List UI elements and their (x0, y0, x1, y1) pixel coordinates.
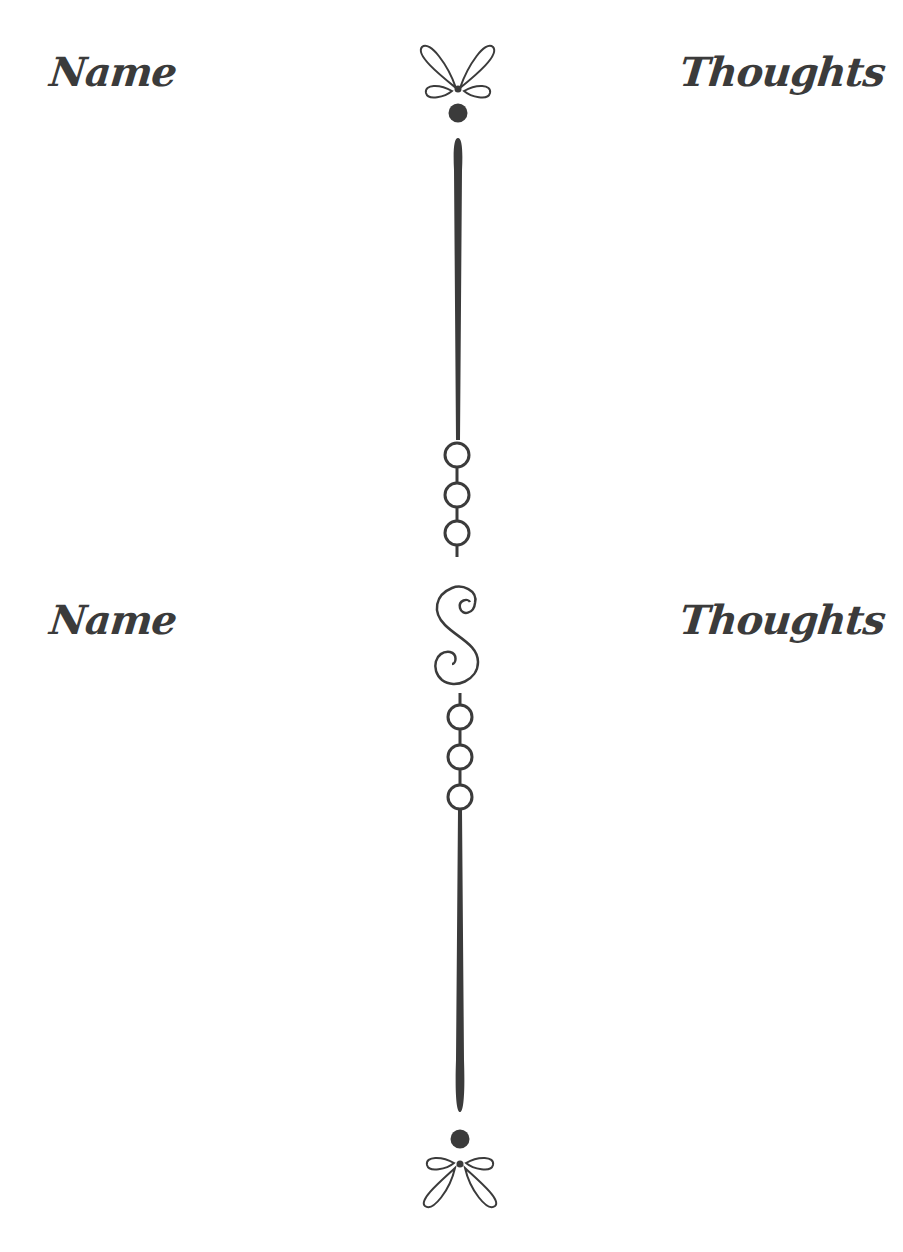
s-swirl-icon (435, 587, 478, 684)
bottom-large-dot-icon (451, 1130, 470, 1149)
top-small-dot-icon (455, 86, 462, 93)
center-divider-ornament (0, 0, 903, 1252)
lower-rings-icon (448, 693, 472, 809)
upper-rings-icon (445, 443, 469, 557)
top-large-dot-icon (449, 104, 468, 123)
upper-vertical-line (454, 138, 463, 440)
lower-vertical-line (456, 810, 465, 1112)
bottom-small-dot-icon (457, 1161, 464, 1168)
